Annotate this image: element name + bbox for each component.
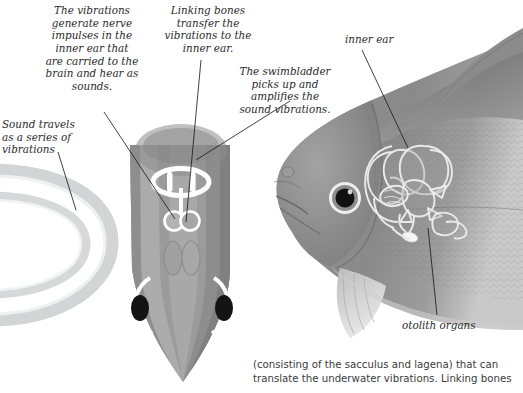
leader-linking-bones bbox=[186, 60, 201, 222]
body-caption-text: (consisting of the sacculus and lagena) … bbox=[253, 358, 521, 387]
leader-inner-ear bbox=[362, 50, 408, 148]
annotation-linking-bones: Linking bones transfer the vibrations to… bbox=[148, 4, 268, 55]
annotation-swimbladder: The swimbladder picks up and amplifies t… bbox=[222, 65, 348, 116]
figure-canvas: The vibrations generate nerve impulses i… bbox=[0, 0, 523, 393]
leader-otolith bbox=[428, 228, 437, 315]
annotation-vibrations-nerve: The vibrations generate nerve impulses i… bbox=[28, 4, 156, 93]
leader-sound-travels bbox=[58, 152, 76, 210]
annotation-sound-travels: Sound travels as a series of vibrations bbox=[2, 118, 94, 156]
leader-vibrations-nerve bbox=[104, 112, 175, 219]
annotation-otolith-organs: otolith organs bbox=[402, 319, 476, 332]
annotation-inner-ear: inner ear bbox=[345, 33, 393, 46]
